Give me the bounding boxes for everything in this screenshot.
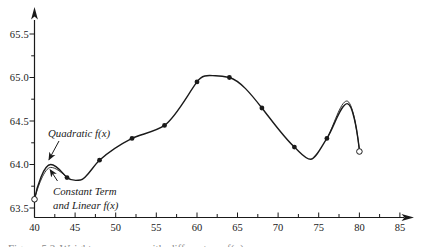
y-axis-arrowhead-icon: [31, 7, 38, 20]
y-tick-label: 64.0: [2, 158, 29, 171]
x-tick-label: 50: [104, 221, 128, 234]
y-tick-label: 65.0: [2, 71, 29, 84]
annotation-constant-linear-line2: and Linear f(x): [53, 199, 118, 213]
x-tick-label: 45: [63, 221, 87, 234]
y-ticks: [30, 34, 35, 208]
data-point: [162, 123, 167, 128]
data-point-open: [32, 197, 38, 203]
constant-linear-arrow-icon: [50, 170, 57, 181]
x-tick-label: 60: [185, 221, 209, 234]
y-tick-label: 65.5: [2, 28, 29, 41]
x-tick-label: 80: [347, 221, 371, 234]
annotation-quadratic: Quadratic f(x): [48, 127, 110, 141]
x-tick-label: 65: [226, 221, 250, 234]
y-tick-label: 64.5: [2, 115, 29, 128]
data-point: [65, 175, 70, 180]
x-ticks: [35, 213, 400, 218]
x-tick-label: 40: [23, 221, 47, 234]
data-point: [227, 75, 232, 80]
x-tick-label: 55: [144, 221, 168, 234]
annotation-constant-linear: Constant Term and Linear f(x): [53, 185, 118, 212]
quadratic-arrow-icon: [49, 141, 59, 160]
data-point: [260, 106, 265, 111]
annotation-constant-linear-line1: Constant Term: [53, 185, 118, 199]
x-tick-label: 75: [307, 221, 331, 234]
annotation-arrows: [49, 141, 59, 181]
data-point: [130, 136, 135, 141]
figure-caption-cropped: Figure 5.2 Weight versus … with differen…: [8, 242, 412, 247]
data-point: [325, 136, 330, 141]
data-point: [292, 145, 297, 150]
x-tick-label: 70: [266, 221, 290, 234]
data-point: [97, 158, 102, 163]
data-point-open: [357, 149, 363, 155]
data-point: [195, 80, 200, 85]
figure-container: 63.5 64.0 64.5 65.0 65.5 40 45 50 55 60 …: [0, 0, 421, 247]
x-tick-label: 85: [388, 221, 412, 234]
y-tick-label: 63.5: [2, 202, 29, 215]
